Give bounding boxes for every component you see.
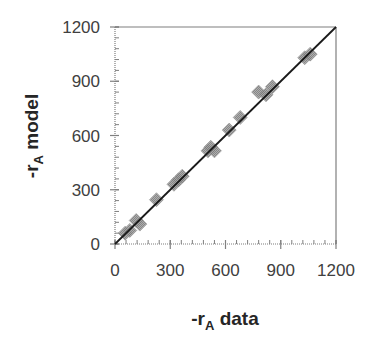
x-tick-label: 900 [267, 261, 295, 280]
x-axis-tick-labels: 03006009001200 [110, 261, 355, 280]
parity-line [115, 27, 336, 244]
x-tick-label: 300 [156, 261, 184, 280]
x-tick-label: 1200 [317, 261, 355, 280]
y-tick-label: 900 [72, 72, 100, 91]
parity-chart: 03006009001200 03006009001200 -rA data -… [0, 0, 368, 343]
x-axis-title: -rA data [191, 308, 259, 333]
y-tick-label: 1200 [62, 18, 100, 37]
y-tick-label: 0 [91, 235, 100, 254]
y-axis-tick-labels: 03006009001200 [62, 18, 100, 254]
y-tick-label: 300 [72, 181, 100, 200]
x-tick-label: 600 [211, 261, 239, 280]
data-point-marker [222, 123, 236, 137]
parity-line-path [115, 27, 336, 244]
x-tick-label: 0 [110, 261, 119, 280]
y-tick-label: 600 [72, 127, 100, 146]
y-axis-title: -rA model [21, 94, 46, 178]
